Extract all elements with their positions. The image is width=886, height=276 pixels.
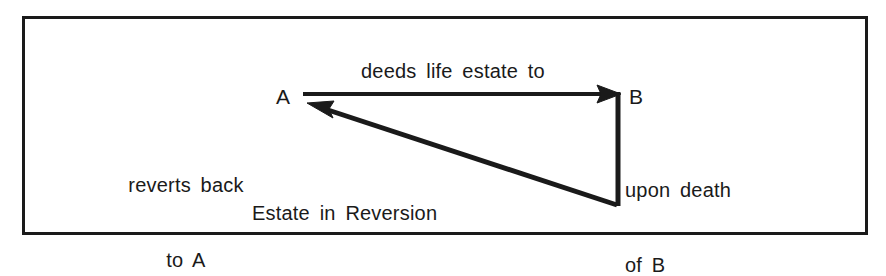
node-label-a: A bbox=[276, 84, 290, 109]
upon-death-line-1: upon death bbox=[625, 178, 731, 203]
reverts-back-label: reverts back to A bbox=[126, 123, 246, 276]
reverts-back-line-2: to A bbox=[126, 248, 246, 273]
deeds-arrow bbox=[303, 85, 621, 103]
reversion-arrow bbox=[307, 101, 617, 205]
reverts-back-line-1: reverts back bbox=[126, 173, 246, 198]
node-label-b: B bbox=[629, 84, 643, 109]
upon-death-line-2: of B bbox=[625, 253, 731, 276]
upon-death-label: upon death of B bbox=[625, 128, 731, 276]
figure-caption: Estate in Reversion bbox=[252, 201, 437, 226]
deeds-arrow-label: deeds life estate to bbox=[361, 59, 545, 84]
